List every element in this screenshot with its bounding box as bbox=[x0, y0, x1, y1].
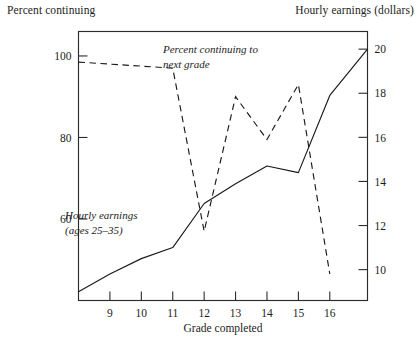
chart-figure: Percent continuing Hourly earnings (doll… bbox=[0, 0, 420, 347]
left-axis-title: Percent continuing bbox=[7, 4, 95, 16]
x-tick-label: 12 bbox=[198, 307, 210, 319]
x-tick-label: 13 bbox=[230, 307, 242, 319]
x-axis-ticks bbox=[110, 292, 330, 301]
left-tick-label: 100 bbox=[54, 50, 72, 62]
left-axis-ticks bbox=[79, 56, 88, 219]
x-tick-label: 9 bbox=[107, 307, 113, 319]
annotation-percent-continuing-line2: next grade bbox=[163, 58, 210, 70]
x-axis-label: Grade completed bbox=[184, 322, 263, 335]
right-tick-label: 16 bbox=[375, 132, 387, 144]
right-tick-label: 20 bbox=[375, 43, 387, 55]
left-tick-label: 80 bbox=[60, 132, 72, 144]
right-tick-label: 14 bbox=[375, 176, 387, 188]
right-axis-tick-labels: 201816141210 bbox=[375, 43, 387, 275]
series-percent-continuing bbox=[79, 62, 330, 274]
series-hourly-earnings bbox=[79, 49, 368, 292]
annotation-hourly-earnings-line1: Hourly earnings bbox=[64, 209, 137, 221]
x-axis-tick-labels: 910111213141516 bbox=[107, 307, 336, 319]
right-axis-title: Hourly earnings (dollars) bbox=[295, 4, 414, 16]
x-tick-label: 16 bbox=[324, 307, 336, 319]
right-tick-label: 18 bbox=[375, 87, 387, 99]
x-tick-label: 11 bbox=[167, 307, 178, 319]
chart-plot-area: 1008060 201816141210 910111213141516 Gra… bbox=[0, 0, 420, 347]
right-axis-ticks bbox=[359, 49, 368, 269]
annotation-percent-continuing-line1: Percent continuing to bbox=[162, 43, 258, 55]
annotation-hourly-earnings-line2: (ages 25–35) bbox=[65, 224, 123, 237]
plot-frame bbox=[79, 32, 368, 301]
right-tick-label: 12 bbox=[375, 220, 387, 232]
x-tick-label: 10 bbox=[136, 307, 148, 319]
left-axis-tick-labels: 1008060 bbox=[54, 50, 72, 225]
x-tick-label: 15 bbox=[293, 307, 305, 319]
x-tick-label: 14 bbox=[261, 307, 273, 319]
right-tick-label: 10 bbox=[375, 264, 387, 276]
